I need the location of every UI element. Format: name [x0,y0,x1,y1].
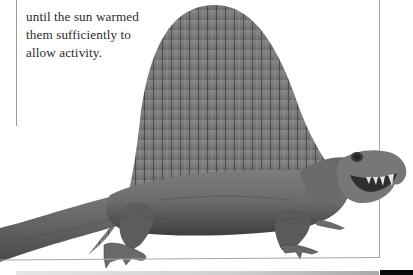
dimetrodon-illustration [0,0,413,275]
hind-foot [104,243,146,268]
hind-leg [120,202,154,250]
bottom-scan-edge-dark [380,270,413,275]
frame-bottom-rule [0,258,379,261]
book-page: when they laid eggs until the sun warmed… [0,0,413,275]
head [337,150,407,203]
front-claw-right [316,220,345,230]
bottom-scan-edge [16,271,379,275]
front-foot [280,245,318,259]
front-leg [275,209,310,250]
